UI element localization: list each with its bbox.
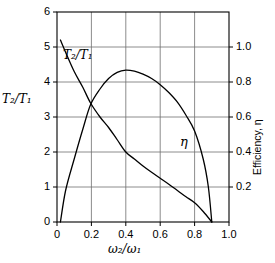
y-tick-label-left: 3 — [44, 111, 50, 122]
x-tick-label: 1.0 — [221, 229, 236, 240]
y-tick-label-right: 0.4 — [236, 146, 251, 157]
axis-ticks — [53, 12, 233, 226]
y-tick-label-left: 4 — [44, 76, 50, 87]
y-tick-label-right: 0.6 — [236, 111, 251, 122]
y-tick-label-right: 0.2 — [236, 181, 251, 192]
y-tick-label-right: 0.8 — [236, 76, 251, 87]
y-axis-title-left: T₂/T₁ — [2, 92, 32, 106]
x-tick-label: 0.6 — [153, 229, 168, 240]
data-curves — [60, 40, 211, 222]
x-tick-label: 0.2 — [84, 229, 99, 240]
x-tick-label: 0.4 — [118, 229, 133, 240]
y-tick-label-left: 5 — [44, 41, 50, 52]
x-tick-label: 0 — [54, 229, 60, 240]
chart-plot-area — [0, 0, 275, 263]
y-tick-label-right: 1.0 — [236, 41, 251, 52]
x-axis-title: ω₂/ω₁ — [108, 242, 141, 256]
y-tick-label-left: 1 — [44, 181, 50, 192]
y-axis-title-right-text: Efficiency, η — [251, 119, 263, 175]
chart-figure: 00.20.40.60.81.0 0123456 0.20.40.60.81.0… — [0, 0, 275, 263]
grid-lines — [57, 12, 229, 222]
x-tick-label: 0.8 — [187, 229, 202, 240]
y-tick-label-left: 0 — [44, 216, 50, 227]
curve-label-temperature-ratio: T₂/T₁ — [63, 48, 93, 62]
curve-temperature-ratio — [60, 40, 211, 222]
curve-label-efficiency: η — [180, 134, 188, 149]
y-tick-label-left: 6 — [44, 6, 50, 17]
y-tick-label-left: 2 — [44, 146, 50, 157]
